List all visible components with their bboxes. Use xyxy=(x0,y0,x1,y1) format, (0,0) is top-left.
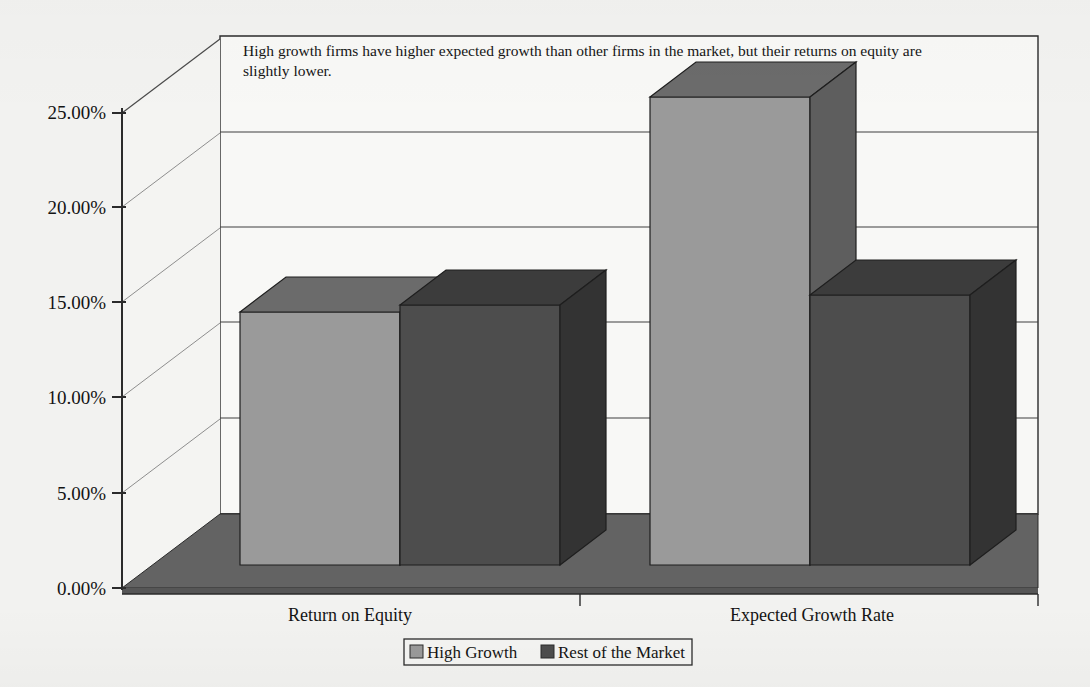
y-tick-label-5: 5.00% xyxy=(57,483,106,504)
annotation-line-1: High growth firms have higher expected g… xyxy=(243,42,922,59)
legend: High Growth Rest of the Market xyxy=(404,639,692,665)
plot-floor-lip xyxy=(122,588,1038,594)
y-tick-label-0: 0.00% xyxy=(57,578,106,599)
legend-swatch-high-growth xyxy=(410,645,423,658)
chart-page: 25.00% 20.00% 15.00% 10.00% 5.00% 0.00% … xyxy=(0,0,1090,687)
x-category-label-expected-growth-rate: Expected Growth Rate xyxy=(730,605,894,625)
bar-return-on-equity-rest-of-market[interactable] xyxy=(400,270,606,565)
y-tick-label-15: 15.00% xyxy=(47,292,106,313)
y-tick-label-20: 20.00% xyxy=(47,197,106,218)
legend-label-rest-of-market: Rest of the Market xyxy=(558,643,685,662)
annotation-line-2: slightly lower. xyxy=(243,62,332,79)
y-tick-label-25: 25.00% xyxy=(47,102,106,123)
legend-swatch-rest-of-market xyxy=(541,645,554,658)
legend-label-high-growth: High Growth xyxy=(427,643,518,662)
y-tick-label-10: 10.00% xyxy=(47,387,106,408)
bar-expected-growth-rest-of-market[interactable] xyxy=(810,260,1016,565)
three-d-bar-chart: 25.00% 20.00% 15.00% 10.00% 5.00% 0.00% … xyxy=(0,0,1090,687)
x-category-label-return-on-equity: Return on Equity xyxy=(288,605,412,625)
plot-left-wall xyxy=(122,39,220,588)
